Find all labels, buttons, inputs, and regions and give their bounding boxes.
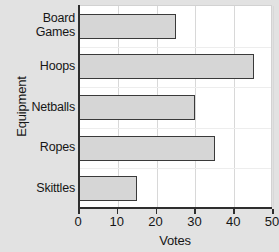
y-axis-tick-label-line: Games (18, 25, 75, 39)
bar (79, 14, 176, 39)
x-axis-tick-label: 0 (58, 214, 98, 229)
y-axis-tick-label: BoardGames (18, 11, 75, 39)
bar (79, 176, 137, 201)
gridline-horizontal (79, 168, 271, 169)
bar-chart: Equipment BoardGamesHoopsNetballsRopesSk… (0, 0, 279, 252)
x-axis-tick-label: 10 (97, 214, 137, 229)
y-axis-tick-label-line: Netballs (18, 100, 75, 114)
y-axis-tick-label-line: Skittles (18, 181, 75, 195)
x-axis-tick-label: 50 (252, 214, 279, 229)
plot-area (78, 5, 272, 208)
gridline-horizontal (79, 87, 271, 88)
y-axis-line (78, 5, 80, 209)
y-axis-tick-label-line: Board (18, 11, 75, 25)
x-axis-title: Votes (78, 233, 272, 248)
gridline-vertical (234, 6, 235, 207)
bar (79, 136, 215, 161)
gridline-vertical (195, 6, 196, 207)
gridline-horizontal (79, 128, 271, 129)
y-axis-tick-label: Hoops (18, 59, 75, 73)
y-axis-tick-label-line: Ropes (18, 140, 75, 154)
y-axis-tick-labels: BoardGamesHoopsNetballsRopesSkittles (18, 5, 75, 208)
gridline-vertical (273, 6, 274, 207)
x-axis-line (78, 207, 272, 209)
x-axis-tick-label: 40 (213, 214, 253, 229)
y-axis-tick-label: Skittles (18, 181, 75, 195)
y-axis-tick-label: Ropes (18, 140, 75, 154)
y-axis-tick-label-line: Hoops (18, 59, 75, 73)
x-axis-tick-label: 30 (174, 214, 214, 229)
bar (79, 54, 254, 79)
y-axis-tick-label: Netballs (18, 100, 75, 114)
gridline-horizontal (79, 47, 271, 48)
bar (79, 95, 195, 120)
x-axis-tick-label: 20 (136, 214, 176, 229)
